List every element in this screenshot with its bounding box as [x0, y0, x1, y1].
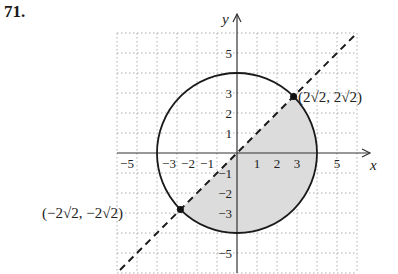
x-tick-label: 5 — [334, 156, 341, 171]
intersection-point-lower — [177, 206, 184, 213]
line-y-equals-x — [120, 34, 356, 270]
y-tick-label: 3 — [226, 86, 233, 101]
y-tick-label: 1 — [226, 126, 233, 141]
y-tick-label: −5 — [218, 246, 232, 261]
y-tick-label: 5 — [226, 46, 233, 61]
x-tick-label: 2 — [274, 156, 281, 171]
x-tick-label: −2 — [181, 156, 195, 171]
graph: y x −5 −3 −2 −1 1 2 3 5 5 3 2 1 −1 −2 −3… — [0, 0, 398, 274]
y-tick-label: −3 — [218, 206, 232, 221]
y-axis-label: y — [220, 11, 229, 27]
x-tick-label: 3 — [294, 156, 301, 171]
x-tick-label: −1 — [200, 156, 214, 171]
x-tick-label: 1 — [254, 156, 261, 171]
x-tick-label: −5 — [120, 156, 134, 171]
x-axis-label: x — [369, 157, 377, 173]
point-label-lower: (−2√2, −2√2) — [42, 205, 123, 222]
y-tick-label: 2 — [226, 106, 233, 121]
x-tick-label: −3 — [162, 156, 176, 171]
y-tick-label: −1 — [218, 166, 232, 181]
intersection-point-upper — [290, 93, 297, 100]
y-tick-label: −2 — [218, 186, 232, 201]
point-label-upper: (2√2, 2√2) — [298, 89, 362, 106]
